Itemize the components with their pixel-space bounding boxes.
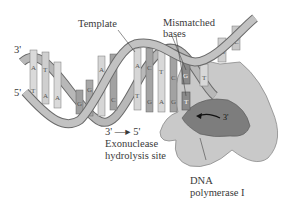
five-prime-left-label: 5'	[14, 87, 21, 98]
direction-from: 3'	[105, 126, 112, 137]
template-label: Template	[78, 18, 117, 29]
svg-text:T: T	[184, 98, 189, 106]
svg-text:C: C	[111, 96, 116, 104]
arrow-right-icon: —▸	[115, 126, 131, 137]
svg-text:A: A	[159, 98, 164, 106]
svg-text:A: A	[31, 64, 36, 72]
svg-text:A: A	[99, 66, 104, 74]
enzyme-label-1: DNA	[190, 175, 213, 186]
enzyme-label-2: polymerase I	[190, 187, 245, 198]
svg-text:T: T	[43, 66, 48, 74]
svg-text:G: G	[183, 72, 188, 80]
svg-text:G: G	[147, 98, 152, 106]
svg-text:C: C	[171, 74, 176, 82]
svg-text:T: T	[159, 68, 164, 76]
dna-diagram: AT TA A G G AT GC AT CG TA CG G T T G C	[0, 0, 286, 207]
svg-text:G: G	[77, 100, 82, 108]
svg-text:A: A	[43, 92, 48, 100]
three-prime-top-label: 3'	[14, 44, 21, 55]
svg-text:T: T	[202, 74, 207, 82]
svg-text:G: G	[171, 98, 176, 106]
svg-text:C: C	[147, 64, 152, 72]
svg-text:G: G	[87, 86, 92, 94]
three-prime-enzyme-label: 3'	[223, 112, 228, 123]
direction-to: 5'	[133, 126, 140, 137]
svg-text:T: T	[135, 92, 140, 100]
svg-text:A: A	[135, 62, 140, 70]
exonuclease-label-1: Exonuclease	[105, 138, 158, 149]
svg-text:A: A	[55, 94, 60, 102]
exonuclease-label-2: hydrolysis site	[105, 150, 166, 161]
mismatched-label-1: Mismatched	[163, 17, 215, 28]
direction-label: 3' —▸ 5'	[105, 126, 140, 137]
mismatched-label-2: bases	[163, 28, 186, 39]
